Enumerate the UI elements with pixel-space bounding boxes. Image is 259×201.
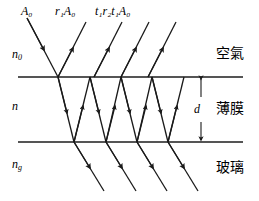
reflected-ray-3	[121, 22, 149, 77]
reflected-ray-1	[58, 22, 86, 77]
medium-label-thin-film: 薄膜	[216, 101, 244, 115]
reflected-rays	[58, 22, 176, 77]
transmitted-ray-4	[168, 142, 198, 191]
reflected-ray-4	[148, 22, 176, 77]
medium-label-air: 空氣	[216, 46, 244, 60]
n-base: n	[12, 99, 18, 113]
transmitted-ray-1	[74, 142, 104, 191]
medium-label-glass: 玻璃	[216, 160, 244, 174]
amplitude-label-second-reflection: t₁r₂t₁A₀	[95, 5, 130, 17]
n0-subscript: 0	[18, 53, 22, 62]
reflected-ray-2	[94, 22, 122, 77]
amplitude-label-incident: A₀	[21, 5, 33, 17]
refractive-index-label-n0: n0	[12, 48, 22, 62]
amplitude-label-first-reflection: r₁A₀	[55, 5, 75, 17]
thickness-label-d: d	[194, 103, 200, 115]
refractive-index-label-n: n	[12, 100, 18, 114]
transmitted-ray-3	[137, 142, 167, 191]
interface-lines	[18, 77, 243, 142]
thin-film-interference-diagram: A₀ r₁A₀ t₁r₂t₁A₀ n0 n ng d 空氣 薄膜 玻璃	[0, 0, 259, 201]
incident-ray	[27, 18, 58, 77]
ng-subscript: g	[18, 163, 22, 172]
refractive-index-label-ng: ng	[12, 158, 22, 172]
transmitted-ray-2	[106, 142, 136, 191]
transmitted-rays	[74, 142, 198, 191]
internal-rays	[58, 77, 184, 142]
